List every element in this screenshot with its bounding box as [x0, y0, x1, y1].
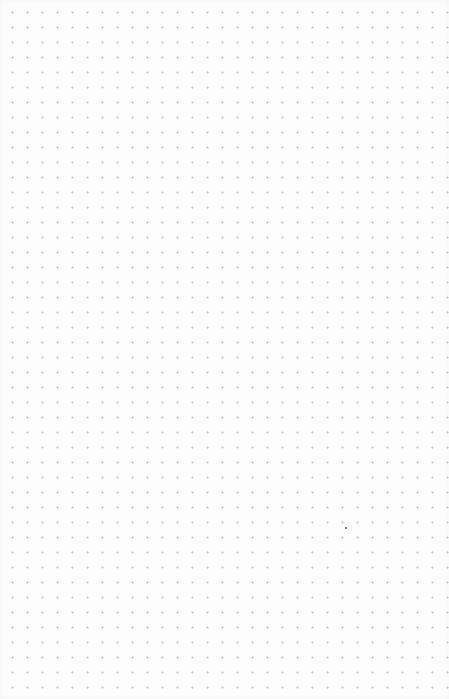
dot-grid-page [0, 0, 449, 699]
stray-mark [345, 527, 347, 529]
